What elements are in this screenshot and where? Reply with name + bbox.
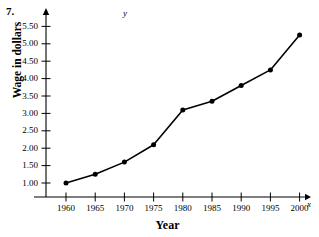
axes-group xyxy=(34,8,311,200)
y-axis-variable: y xyxy=(123,8,127,18)
data-points-group xyxy=(64,33,303,186)
y-tick-label: 5.50 xyxy=(10,22,38,31)
y-tick-label: 1.00 xyxy=(10,179,38,188)
y-tick-label: 5.00 xyxy=(10,39,38,48)
y-tick-label: 4.50 xyxy=(10,57,38,66)
x-axis-variable: x xyxy=(307,199,311,209)
x-axis-label-container: Year xyxy=(0,218,319,233)
y-tick-label: 1.50 xyxy=(10,161,38,170)
y-tick-label: 4.00 xyxy=(10,74,38,83)
x-tick-label: 2000 xyxy=(283,204,317,213)
tick-marks-group xyxy=(42,26,300,201)
x-axis-label: Year xyxy=(156,218,180,233)
y-tick-label: 3.50 xyxy=(10,92,38,101)
y-tick-label: 2.50 xyxy=(10,126,38,135)
y-tick-label: 3.00 xyxy=(10,109,38,118)
chart-figure: 7. Wage in dollars Year 1.001.502.002.50… xyxy=(0,0,319,237)
plot-area xyxy=(0,0,319,237)
y-tick-label: 2.00 xyxy=(10,144,38,153)
